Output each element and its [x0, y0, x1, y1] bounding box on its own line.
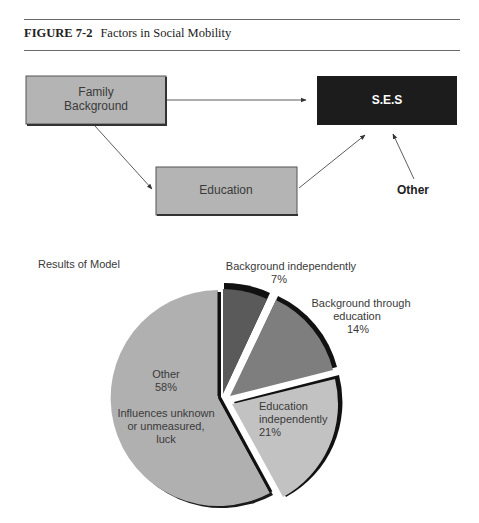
node-education: Education — [156, 167, 298, 216]
figure-canvas: Family Background S.E.S Education Other … — [0, 0, 479, 523]
svg-text:14%: 14% — [347, 323, 369, 335]
svg-text:Other: Other — [152, 368, 180, 380]
ses-label: S.E.S — [372, 93, 403, 107]
svg-text:luck: luck — [156, 433, 176, 445]
svg-text:Background through: Background through — [311, 297, 410, 309]
svg-text:Education: Education — [259, 400, 308, 412]
node-family-background: Family Background — [26, 76, 167, 126]
chart-title: Results of Model — [38, 258, 120, 270]
arrow-family-to-education — [95, 126, 152, 189]
education-label: Education — [199, 183, 252, 197]
label-background-independently: Background independently 7% — [226, 260, 357, 285]
family-label-line2: Background — [64, 99, 128, 113]
svg-text:Background independently: Background independently — [226, 260, 357, 272]
svg-text:7%: 7% — [271, 273, 287, 285]
label-background-through-education: Background through education 14% — [311, 297, 410, 335]
svg-text:Influences unknown: Influences unknown — [117, 407, 214, 419]
node-ses: S.E.S — [317, 76, 457, 125]
svg-text:58%: 58% — [155, 381, 177, 393]
svg-text:independently: independently — [259, 413, 328, 425]
other-label: Other — [397, 183, 429, 197]
arrow-other-to-ses — [393, 134, 414, 179]
family-label-line1: Family — [78, 85, 113, 99]
svg-text:21%: 21% — [259, 426, 281, 438]
svg-text:education: education — [333, 310, 381, 322]
arrow-education-to-ses — [299, 135, 365, 188]
svg-text:or unmeasured,: or unmeasured, — [127, 420, 204, 432]
